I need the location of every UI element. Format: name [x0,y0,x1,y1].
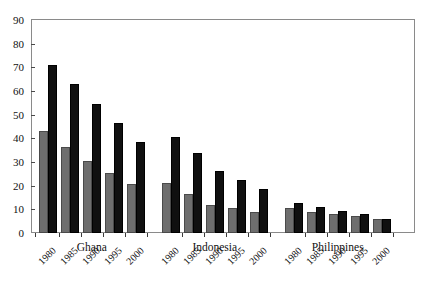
bar-indonesia-1980-gray [162,183,171,233]
bar-philippines-1990-black [338,211,347,233]
bar-ghana-2000-black [136,142,145,233]
y-tick-label: 30 [13,157,24,168]
x-tick-mark [349,233,350,237]
x-tick-mark [182,233,183,237]
y-tick-mark [31,67,35,68]
bar-ghana-1995-gray [105,173,114,233]
x-tick-mark [204,233,205,237]
bar-indonesia-2000-gray [250,212,259,233]
y-tick-mark [31,186,35,187]
y-tick-label: 40 [13,133,24,144]
x-tick-label-ghana-2000: 2000 [124,245,146,267]
bars-layer [32,20,414,233]
group-label-indonesia: Indonesia [192,241,237,254]
bar-philippines-1980-gray [285,208,294,233]
y-tick-label: 80 [13,38,24,49]
bar-philippines-2000-black [382,219,391,233]
bar-chart: 0102030405060708090 19801985199019952000… [0,0,431,300]
y-tick-mark [31,138,35,139]
bar-indonesia-1990-gray [206,205,215,233]
bar-ghana-1995-black [114,123,123,233]
y-tick-mark [31,91,35,92]
bar-indonesia-1995-gray [228,208,237,233]
bar-ghana-1980-black [48,65,57,233]
x-tick-mark [393,233,394,237]
bar-indonesia-1995-black [237,180,246,233]
bar-philippines-1985-black [316,207,325,233]
y-tick-label: 90 [13,15,24,26]
x-tick-mark [81,233,82,237]
x-tick-mark [248,233,249,237]
x-tick-mark [125,233,126,237]
x-tick-mark [226,233,227,237]
bar-philippines-1985-gray [307,212,316,233]
bar-ghana-1980-gray [39,131,48,233]
y-tick-mark [31,44,35,45]
x-tick-mark [103,233,104,237]
x-tick-label-philippines-2000: 2000 [370,245,392,267]
x-tick-label-ghana-1980: 1980 [36,245,58,267]
x-tick-mark [147,233,148,237]
group-label-ghana: Ghana [77,241,107,254]
y-tick-label: 0 [19,228,25,239]
group-label-philippines: Philippines [312,241,364,254]
bar-ghana-1985-black [70,84,79,233]
y-axis: 0102030405060708090 [0,0,31,300]
bar-philippines-1995-black [360,214,369,233]
bar-philippines-1995-gray [351,216,360,233]
x-tick-label-indonesia-2000: 2000 [247,245,269,267]
bar-indonesia-1990-black [215,171,224,233]
bar-indonesia-1985-gray [184,194,193,233]
bar-indonesia-1985-black [193,153,202,233]
y-tick-label: 60 [13,86,24,97]
y-tick-label: 70 [13,62,24,73]
bar-ghana-1990-gray [83,161,92,233]
x-tick-mark [270,233,271,237]
x-tick-mark [305,233,306,237]
y-tick-mark [31,162,35,163]
x-tick-mark [59,233,60,237]
x-tick-label-indonesia-1980: 1980 [159,245,181,267]
bar-philippines-1980-black [294,203,303,233]
bar-ghana-2000-gray [127,184,136,233]
bar-philippines-2000-gray [373,219,382,233]
x-tick-label-philippines-1980: 1980 [282,245,304,267]
y-tick-label: 50 [13,109,24,120]
y-tick-mark [31,209,35,210]
bar-indonesia-2000-black [259,189,268,233]
x-tick-mark [327,233,328,237]
y-tick-label: 20 [13,180,24,191]
bar-ghana-1985-gray [61,147,70,233]
x-tick-mark [35,233,36,237]
x-tick-mark [371,233,372,237]
bar-ghana-1990-black [92,104,101,233]
bar-philippines-1990-gray [329,214,338,233]
y-tick-label: 10 [13,204,24,215]
bar-indonesia-1980-black [171,137,180,233]
y-tick-mark [31,115,35,116]
